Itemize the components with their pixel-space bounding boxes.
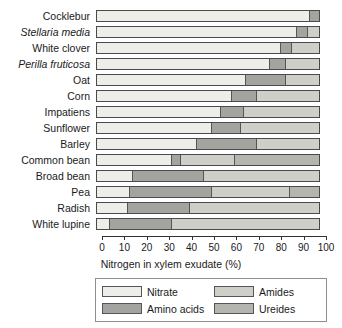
bar-segment-nitrate — [97, 187, 130, 197]
axis-tick — [192, 236, 193, 240]
bar-row: Radish — [0, 200, 342, 216]
axis-tick-label: 20 — [141, 242, 152, 254]
legend-item: Nitrate — [102, 286, 208, 298]
bar-segment-amino-acids — [270, 59, 286, 69]
bar-row: Impatiens — [0, 104, 342, 120]
bar-segment-nitrate — [97, 27, 297, 37]
bar-segment-nitrate — [97, 11, 310, 21]
legend-item: Ureides — [214, 303, 320, 315]
bar-track — [96, 90, 320, 102]
axis-tick — [102, 236, 103, 240]
bar-segment-nitrate — [97, 139, 197, 149]
bar-segment-amides — [190, 203, 319, 213]
bar-track — [96, 122, 320, 134]
axis-tick-label: 50 — [208, 242, 219, 254]
bar-segment-ureides — [235, 155, 319, 165]
legend-swatch — [214, 303, 254, 314]
bar-row: Stellaria media — [0, 24, 342, 40]
legend-label: Ureides — [259, 303, 295, 315]
bar-segment-amino-acids — [133, 171, 204, 181]
bar-segment-amides — [241, 123, 319, 133]
bar-track — [96, 42, 320, 54]
legend-label: Amino acids — [147, 303, 204, 315]
bar-segment-nitrate — [97, 123, 212, 133]
axis-tick — [281, 236, 282, 240]
bar-row: Pea — [0, 184, 342, 200]
bar-row: Oat — [0, 72, 342, 88]
bar-track — [96, 218, 320, 230]
bar-track — [96, 138, 320, 150]
bar-segment-amides — [172, 219, 319, 229]
axis-tick — [169, 236, 170, 240]
category-label: Radish — [0, 202, 96, 214]
bar-segment-amides — [286, 59, 319, 69]
bar-row: Sunflower — [0, 120, 342, 136]
axis-tick — [236, 236, 237, 240]
stacked-bar-chart: CockleburStellaria mediaWhite cloverPeri… — [0, 0, 342, 328]
bar-track — [96, 154, 320, 166]
bar-row: Perilla fruticosa — [0, 56, 342, 72]
axis-tick — [259, 236, 260, 240]
axis-tick-label: 10 — [119, 242, 130, 254]
bar-segment-amino-acids — [221, 107, 243, 117]
axis-tick-label: 0 — [99, 242, 105, 254]
axis-tick-label: 30 — [164, 242, 175, 254]
chart-legend: NitrateAmidesAmino acidsUreides — [95, 278, 327, 322]
bar-segment-nitrate — [97, 107, 221, 117]
bar-segment-amino-acids — [212, 123, 241, 133]
bar-row: Cocklebur — [0, 8, 342, 24]
bar-row: White lupine — [0, 216, 342, 232]
bar-segment-nitrate — [97, 171, 133, 181]
bar-track — [96, 170, 320, 182]
bar-segment-amino-acids — [110, 219, 172, 229]
bar-row: White clover — [0, 40, 342, 56]
bar-segment-nitrate — [97, 59, 270, 69]
legend-label: Nitrate — [147, 286, 178, 298]
legend-item: Amino acids — [102, 303, 208, 315]
axis-tick — [304, 236, 305, 240]
legend-label: Amides — [259, 286, 294, 298]
bar-segment-amides — [257, 139, 319, 149]
category-label: Impatiens — [0, 106, 96, 118]
legend-item: Amides — [214, 286, 320, 298]
category-label: Corn — [0, 90, 96, 102]
category-label: Perilla fruticosa — [0, 58, 96, 70]
bar-segment-amino-acids — [128, 203, 190, 213]
bar-track — [96, 186, 320, 198]
category-label: Pea — [0, 186, 96, 198]
bar-segment-amino-acids — [232, 91, 256, 101]
bar-segment-amino-acids — [246, 75, 286, 85]
bar-track — [96, 74, 320, 86]
axis-tick — [326, 236, 327, 240]
axis-tick — [124, 236, 125, 240]
bar-row: Barley — [0, 136, 342, 152]
axis-tick-label: 60 — [231, 242, 242, 254]
axis-tick — [147, 236, 148, 240]
bar-segment-amino-acids — [130, 187, 212, 197]
category-label: White clover — [0, 42, 96, 54]
category-label: Oat — [0, 74, 96, 86]
bar-segment-amino-acids — [310, 11, 319, 21]
legend-swatch — [102, 286, 142, 297]
bar-segment-nitrate — [97, 219, 110, 229]
bar-segment-amino-acids — [297, 27, 308, 37]
bar-segment-amides — [181, 155, 234, 165]
bar-segment-amides — [212, 187, 290, 197]
category-label: Broad bean — [0, 170, 96, 182]
category-label: Cocklebur — [0, 10, 96, 22]
bar-segment-nitrate — [97, 75, 246, 85]
bar-segment-amides — [244, 107, 319, 117]
bar-segment-amino-acids — [281, 43, 292, 53]
axis-tick-label: 80 — [276, 242, 287, 254]
bar-segment-nitrate — [97, 43, 281, 53]
bar-row: Common bean — [0, 152, 342, 168]
bar-segment-amino-acids — [197, 139, 257, 149]
bar-row: Broad bean — [0, 168, 342, 184]
legend-swatch — [214, 286, 254, 297]
x-axis-title: Nitrogen in xylem exudate (%) — [0, 258, 342, 270]
bar-segment-nitrate — [97, 203, 128, 213]
bar-track — [96, 106, 320, 118]
bar-segment-nitrate — [97, 155, 172, 165]
category-label: Sunflower — [0, 122, 96, 134]
axis-tick-label: 40 — [186, 242, 197, 254]
